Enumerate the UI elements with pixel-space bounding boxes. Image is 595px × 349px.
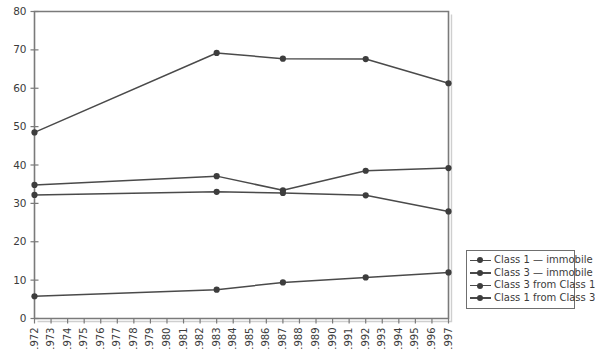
x-tick-label: 1983 xyxy=(211,328,222,349)
legend-item[interactable]: Class 3 — immobile xyxy=(470,267,570,280)
x-tick-label: 1995 xyxy=(409,328,420,349)
x-tick-label: 1977 xyxy=(111,328,122,349)
series-markers xyxy=(31,50,451,300)
data-point-marker xyxy=(214,50,220,56)
data-point-marker xyxy=(445,165,451,171)
x-tick-label: 1973 xyxy=(45,328,56,349)
data-point-marker xyxy=(445,80,451,86)
x-tick-label: 1984 xyxy=(227,328,238,349)
legend-item-label: Class 1 from Class 3 xyxy=(494,292,595,304)
data-point-marker xyxy=(280,190,286,196)
x-tick-label: 1978 xyxy=(128,328,139,349)
legend-item[interactable]: Class 3 from Class 1 xyxy=(470,279,570,292)
y-tick-label: 70 xyxy=(13,43,26,55)
series-lines xyxy=(35,53,449,296)
x-tick-label: 1986 xyxy=(260,328,271,349)
x-tick-labels: 1972197319741975197619771978197919801981… xyxy=(29,328,454,349)
x-tick-label: 1993 xyxy=(376,328,387,349)
legend-item-label: Class 1 — immobile xyxy=(494,254,593,266)
legend-marker-icon xyxy=(470,293,491,303)
y-tick-label: 50 xyxy=(13,120,26,132)
x-tick-label: 1982 xyxy=(194,328,205,349)
x-tick-label: 1980 xyxy=(161,328,172,349)
x-tick-label: 1994 xyxy=(393,328,404,349)
y-tick-label: 40 xyxy=(13,159,26,171)
series-line xyxy=(35,272,449,296)
x-tick-label: 1991 xyxy=(343,328,354,349)
data-point-marker xyxy=(214,173,220,179)
data-point-marker xyxy=(214,189,220,195)
axes xyxy=(35,12,449,319)
legend-marker-icon xyxy=(470,255,491,265)
y-tick-labels: 01020304050607080 xyxy=(13,5,26,324)
data-point-marker xyxy=(31,293,37,299)
data-point-marker xyxy=(445,208,451,214)
x-tick-label: 1997 xyxy=(443,328,454,349)
data-point-marker xyxy=(280,56,286,62)
y-tick-label: 20 xyxy=(13,235,26,247)
x-tick-label: 1972 xyxy=(29,328,40,349)
y-tick-label: 10 xyxy=(13,274,26,286)
data-point-marker xyxy=(280,279,286,285)
data-point-marker xyxy=(214,287,220,293)
x-tick-label: 1987 xyxy=(277,328,288,349)
data-point-marker xyxy=(363,192,369,198)
series-line xyxy=(35,192,449,212)
y-tick-label: 30 xyxy=(13,197,26,209)
data-point-marker xyxy=(31,192,37,198)
data-point-marker xyxy=(363,168,369,174)
legend-marker-icon xyxy=(470,268,491,278)
data-point-marker xyxy=(363,274,369,280)
legend: Class 1 — immobile Class 3 — immobile Cl… xyxy=(466,250,575,309)
data-point-marker xyxy=(363,56,369,62)
series-line xyxy=(35,53,449,132)
legend-item[interactable]: Class 1 — immobile xyxy=(470,254,570,267)
y-tick-label: 80 xyxy=(13,5,26,17)
series-line xyxy=(35,168,449,190)
legend-item-label: Class 3 — immobile xyxy=(494,267,593,279)
x-tick-label: 1981 xyxy=(178,328,189,349)
x-tick-label: 1989 xyxy=(310,328,321,349)
legend-marker-icon xyxy=(470,280,491,290)
data-point-marker xyxy=(31,182,37,188)
data-point-marker xyxy=(445,269,451,275)
y-tick-label: 60 xyxy=(13,82,26,94)
x-tick-label: 1975 xyxy=(78,328,89,349)
data-point-marker xyxy=(31,129,37,135)
x-tick-label: 1992 xyxy=(360,328,371,349)
x-tick-label: 1996 xyxy=(426,328,437,349)
x-tick-label: 1979 xyxy=(144,328,155,349)
x-tick-label: 1974 xyxy=(62,328,73,349)
legend-item[interactable]: Class 1 from Class 3 xyxy=(470,292,570,305)
x-tick-label: 1990 xyxy=(327,328,338,349)
x-tick-label: 1988 xyxy=(293,328,304,349)
x-tick-label: 1976 xyxy=(95,328,106,349)
legend-item-label: Class 3 from Class 1 xyxy=(494,279,595,291)
x-tick-label: 1985 xyxy=(244,328,255,349)
y-tick-label: 0 xyxy=(20,312,27,324)
